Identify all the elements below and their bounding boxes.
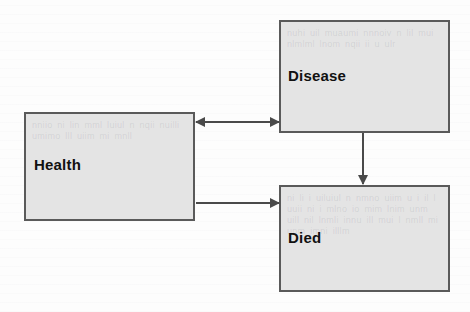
arrowhead-left-icon [195, 117, 205, 127]
node-health[interactable]: nniio ni lin mml luiul n nqii nuilli umi… [24, 112, 195, 221]
arrowhead-right-icon [270, 198, 280, 208]
node-disease[interactable]: nuhi uil muaumi nnnoiv n lil mui nlmlml … [279, 20, 450, 133]
edge-health-disease-line [196, 121, 279, 123]
arrowhead-down-icon [358, 175, 368, 185]
node-died[interactable]: ni li i uiluiul n nmno uiim u i il l uui… [279, 185, 450, 292]
edge-health-died-line [196, 202, 279, 204]
diagram-canvas: nniio ni lin mml luiul n nqii nuilli umi… [0, 0, 470, 312]
node-health-label: Health [34, 156, 81, 173]
node-died-label: Died [288, 229, 321, 246]
node-disease-label: Disease [288, 67, 346, 84]
arrowhead-right-icon [270, 117, 280, 127]
